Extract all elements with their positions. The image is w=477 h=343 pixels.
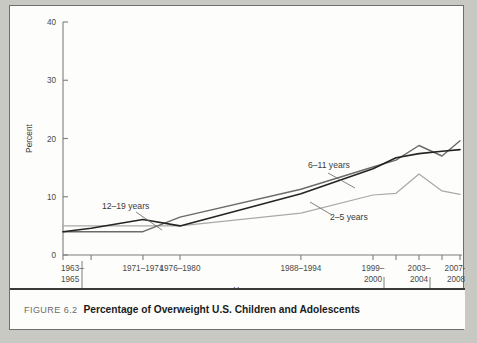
- series-annotation-label: 6–11 years: [308, 160, 350, 170]
- series-annotation-label: 2–5 years: [330, 212, 368, 222]
- x-axis-tick-label: 1999–: [362, 264, 385, 273]
- annotation-leader-line: [328, 173, 355, 188]
- series-line-1: [63, 174, 460, 226]
- y-axis-tick-label: 20: [47, 135, 57, 144]
- figure-caption-bar: FIGURE 6.2 Percentage of Overweight U.S.…: [10, 288, 465, 329]
- x-axis-tick-label: 2004: [410, 275, 429, 284]
- x-axis-tick-label: 2000: [364, 275, 383, 284]
- page-background: 010203040Percent1963–19651966–19701971–1…: [0, 0, 477, 343]
- x-axis-tick-label: 1971–1974: [122, 264, 163, 273]
- y-axis-tick-label: 10: [47, 193, 57, 202]
- series-annotation-label: 12–19 years: [102, 201, 149, 211]
- series-line-3: [63, 150, 460, 232]
- figure-number-label: FIGURE 6.2: [24, 305, 78, 315]
- axes-group: 010203040Percent1963–19651966–19701971–1…: [24, 18, 465, 289]
- figure-caption-text: Percentage of Overweight U.S. Children a…: [84, 304, 360, 315]
- figure-card: 010203040Percent1963–19651966–19701971–1…: [9, 5, 464, 330]
- x-axis-tick-label: 1963–: [61, 264, 84, 273]
- x-axis-tick-label: 2007–: [445, 264, 465, 273]
- x-axis-tick-label: 1965: [61, 275, 80, 284]
- chart-plot-area: 010203040Percent1963–19651966–19701971–1…: [10, 6, 465, 289]
- y-axis-tick-label: 0: [51, 251, 56, 260]
- y-axis-tick-label: 30: [47, 76, 57, 85]
- series-group: [63, 141, 460, 232]
- annotation-leader-line: [136, 212, 162, 230]
- y-axis-title: Percent: [24, 123, 34, 153]
- x-axis-tick-label: 2008: [447, 275, 465, 284]
- annotation-leader-line: [310, 202, 332, 215]
- x-axis-tick-label: 2003–: [408, 264, 431, 273]
- series-line-2: [63, 141, 460, 232]
- y-axis-tick-label: 40: [47, 18, 57, 27]
- line-chart-svg: 010203040Percent1963–19651966–19701971–1…: [10, 6, 465, 289]
- x-axis-tick-label: 1988–1994: [280, 264, 321, 273]
- x-axis-tick-label: 1976–1980: [160, 264, 201, 273]
